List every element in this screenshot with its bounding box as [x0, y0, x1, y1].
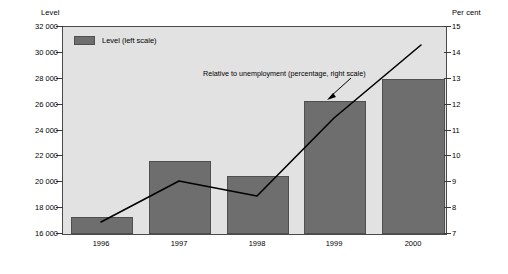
plot-area — [62, 26, 447, 235]
tick-mark-right-11 — [444, 130, 451, 131]
y-right-tick-9: 9 — [452, 177, 476, 186]
tick-mark-right-15 — [444, 26, 451, 27]
y-right-tick-10: 10 — [452, 151, 476, 160]
tick-mark-right-12 — [444, 104, 451, 105]
y-left-tick-16000: 16 000 — [8, 229, 58, 238]
y-left-tick-26000: 26 000 — [8, 100, 58, 109]
y-left-tick-30000: 30 000 — [8, 48, 58, 57]
bar-1996 — [71, 217, 133, 234]
x-tick-1996: 1996 — [93, 239, 110, 248]
bar-1997 — [149, 161, 211, 234]
y-right-tick-7: 7 — [452, 229, 476, 238]
right-axis-title: Per cent — [452, 8, 481, 17]
tick-mark-right-7 — [444, 233, 451, 234]
bar-1999 — [304, 101, 366, 234]
chart-figure: Level Per cent 16 000 18 000 20 000 22 0… — [0, 0, 508, 274]
tick-mark-right-8 — [444, 207, 451, 208]
x-tick-1999: 1999 — [326, 239, 343, 248]
tick-mark-right-13 — [444, 78, 451, 79]
y-right-tick-15: 15 — [452, 22, 476, 31]
bar-2000 — [382, 79, 445, 234]
tick-mark-right-9 — [444, 181, 451, 182]
y-right-tick-14: 14 — [452, 48, 476, 57]
bar-1998 — [227, 176, 289, 234]
y-right-tick-11: 11 — [452, 126, 476, 135]
y-left-tick-18000: 18 000 — [8, 203, 58, 212]
y-left-tick-22000: 22 000 — [8, 151, 58, 160]
tick-mark-right-14 — [444, 52, 451, 53]
left-axis-title: Level — [41, 8, 59, 17]
x-tick-2000: 2000 — [405, 239, 422, 248]
legend-label-level: Level (left scale) — [102, 36, 157, 45]
y-left-tick-28000: 28 000 — [8, 74, 58, 83]
x-tick-1997: 1997 — [171, 239, 188, 248]
y-right-tick-8: 8 — [452, 203, 476, 212]
y-left-tick-24000: 24 000 — [8, 126, 58, 135]
legend-swatch-level — [74, 36, 95, 45]
y-left-tick-20000: 20 000 — [8, 177, 58, 186]
x-tick-1998: 1998 — [249, 239, 266, 248]
y-left-tick-32000: 32 000 — [8, 22, 58, 31]
tick-mark-right-10 — [444, 155, 451, 156]
annotation-label-relative-to-unemployment: Relative to unemployment (percentage, ri… — [203, 69, 366, 78]
y-right-tick-13: 13 — [452, 74, 476, 83]
y-right-tick-12: 12 — [452, 100, 476, 109]
legend: Level (left scale) — [74, 36, 157, 45]
